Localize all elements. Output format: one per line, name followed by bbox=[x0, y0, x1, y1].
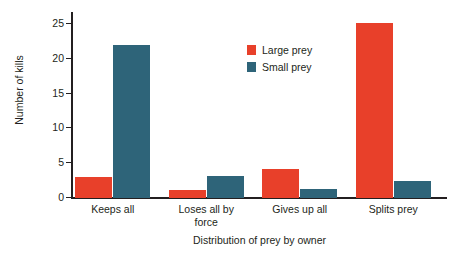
y-axis-title: Number of kills bbox=[13, 35, 25, 145]
bar-splits-prey-large-prey bbox=[356, 23, 393, 198]
legend-item-small-prey: Small prey bbox=[247, 59, 312, 75]
bar-gives-up-all-large-prey bbox=[262, 169, 299, 198]
legend-item-large-prey: Large prey bbox=[247, 42, 312, 58]
x-axis-title: Distribution of prey by owner bbox=[72, 234, 447, 246]
y-tick-label: 10 bbox=[36, 127, 64, 128]
bar-keeps-all-large-prey bbox=[75, 177, 112, 198]
bar-chart-figure: 0510152025 Number of kills Keeps allLose… bbox=[0, 0, 459, 255]
y-tick-label: 15 bbox=[36, 93, 64, 94]
y-tick-mark bbox=[66, 162, 72, 163]
x-tick-label-line: Splits prey bbox=[343, 203, 443, 216]
legend-swatch-large-prey bbox=[247, 45, 256, 55]
bars-layer bbox=[73, 12, 447, 198]
x-tick-label: Keeps all bbox=[63, 203, 163, 216]
y-tick-label: 20 bbox=[36, 58, 64, 59]
y-tick-mark bbox=[66, 127, 72, 128]
bar-loses-all-by-force-small-prey bbox=[207, 176, 244, 198]
y-tick-mark bbox=[66, 197, 72, 198]
y-tick-mark bbox=[66, 58, 72, 59]
y-tick-mark bbox=[66, 93, 72, 94]
chart-legend: Large prey Small prey bbox=[247, 42, 312, 76]
x-tick-label: Gives up all bbox=[250, 203, 350, 216]
x-tick-label-line: Keeps all bbox=[63, 203, 163, 216]
bar-gives-up-all-small-prey bbox=[300, 189, 337, 198]
bar-loses-all-by-force-large-prey bbox=[169, 190, 206, 198]
y-tick-label: 0 bbox=[36, 197, 64, 198]
x-tick-label-line: Loses all by bbox=[156, 203, 256, 216]
legend-label-large-prey: Large prey bbox=[262, 44, 312, 56]
bar-keeps-all-small-prey bbox=[113, 45, 150, 198]
x-tick-label: Loses all byforce bbox=[156, 203, 256, 228]
legend-swatch-small-prey bbox=[247, 62, 256, 72]
x-tick-label-line: Gives up all bbox=[250, 203, 350, 216]
x-tick-label: Splits prey bbox=[343, 203, 443, 216]
legend-label-small-prey: Small prey bbox=[262, 61, 312, 73]
x-tick-label-line: force bbox=[156, 216, 256, 229]
bar-splits-prey-small-prey bbox=[394, 181, 431, 198]
y-tick-label: 5 bbox=[36, 162, 64, 163]
y-tick-mark bbox=[66, 23, 72, 24]
y-tick-label: 25 bbox=[36, 23, 64, 24]
